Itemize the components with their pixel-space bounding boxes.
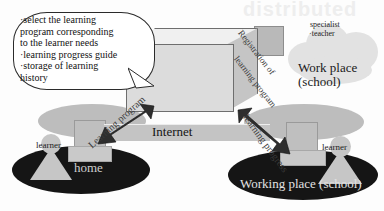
- school-site-label: Working place (school): [240, 176, 362, 192]
- teacher-label: ·teacher: [309, 29, 335, 38]
- school-learner-label: learner: [322, 142, 347, 152]
- specialist-label: specialist: [310, 20, 340, 29]
- home-learner-label: learner: [36, 140, 61, 150]
- diagram-canvas: distributed learner home learner Working…: [0, 0, 384, 211]
- callout-line: ·learning progress guide: [20, 49, 156, 61]
- workplace-label-line2: (school): [298, 74, 341, 90]
- home-site-label: home: [74, 160, 103, 176]
- callout-line: program corresponding: [20, 26, 156, 38]
- callout-feature-list: ·select the learning program correspondi…: [20, 14, 156, 84]
- callout-line: to the learner needs: [20, 37, 156, 49]
- home-learner-body: [30, 148, 72, 180]
- callout-line: ·select the learning: [20, 14, 156, 26]
- callout-line: ·storage of learning: [20, 60, 156, 72]
- callout-line: history: [20, 72, 156, 84]
